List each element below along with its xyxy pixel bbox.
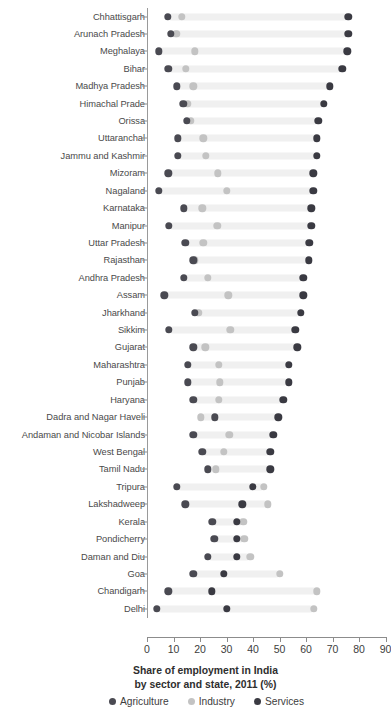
chart-row: Punjab — [0, 374, 391, 391]
chart-row: Jammu and Kashmir — [0, 147, 391, 164]
data-point-services — [280, 396, 287, 403]
y-axis-label: Gujarat — [115, 342, 145, 352]
chart-row: Mizoram — [0, 165, 391, 182]
y-axis-label: Dadra and Nagar Haveli — [46, 412, 145, 422]
chart-row: West Bengal — [0, 444, 391, 461]
chart-row: Dadra and Nagar Haveli — [0, 409, 391, 426]
x-axis-tick — [333, 637, 334, 642]
chart-row: Tripura — [0, 478, 391, 495]
y-axis-tick — [142, 573, 147, 574]
x-axis-tick-label: 90 — [380, 643, 391, 655]
y-axis-label: Manipur — [112, 221, 145, 231]
chart-row: Arunach Pradesh — [0, 25, 391, 42]
range-connector — [157, 605, 314, 612]
chart-title-line-1: Share of employment in India — [20, 664, 391, 678]
chart-row: Daman and Diu — [0, 548, 391, 565]
y-axis-label: Tripura — [116, 482, 145, 492]
data-point-industry — [276, 570, 283, 577]
y-axis-label: Nagaland — [106, 186, 145, 196]
data-point-services — [292, 326, 299, 333]
range-connector — [171, 30, 349, 37]
y-axis-label: Himachal Prade — [80, 99, 145, 109]
x-axis-tick — [359, 637, 360, 642]
x-axis-tick-label: 60 — [300, 643, 312, 655]
range-connector — [185, 501, 268, 508]
range-connector — [168, 588, 316, 595]
chart-row: Uttaranchal — [0, 130, 391, 147]
x-axis-tick-label: 0 — [144, 643, 150, 655]
chart-row: Tamil Nadu — [0, 461, 391, 478]
y-axis-tick — [142, 208, 147, 209]
data-point-services — [313, 152, 320, 159]
chart-row: Uttar Pradesh — [0, 234, 391, 251]
data-point-services — [285, 379, 292, 386]
y-axis-label: Sikkim — [118, 325, 145, 335]
chart-row: Haryana — [0, 391, 391, 408]
data-point-services — [270, 431, 277, 438]
data-point-industry — [260, 483, 267, 490]
range-connector — [193, 570, 279, 577]
y-axis-tick — [142, 347, 147, 348]
x-axis-tick — [227, 637, 228, 642]
y-axis-label: Daman and Diu — [81, 552, 145, 562]
y-axis-tick — [142, 399, 147, 400]
data-point-services — [294, 344, 301, 351]
y-axis-tick — [142, 556, 147, 557]
legend-swatch-agriculture-icon — [109, 698, 116, 705]
data-point-industry — [264, 501, 271, 508]
legend-item-agriculture[interactable]: Agriculture — [109, 696, 169, 707]
range-connector — [195, 309, 301, 316]
range-connector — [193, 344, 297, 351]
data-point-services — [275, 413, 282, 420]
y-axis-label: Rajasthan — [104, 255, 145, 265]
data-point-services — [326, 82, 333, 89]
y-axis-tick — [142, 452, 147, 453]
data-point-services — [267, 466, 274, 473]
data-point-services — [297, 309, 304, 316]
y-axis-tick — [142, 295, 147, 296]
range-connector — [168, 65, 342, 72]
y-axis-tick — [142, 155, 147, 156]
x-axis-tick-label: 50 — [274, 643, 286, 655]
chart-row: Goa — [0, 565, 391, 582]
y-axis-tick — [142, 242, 147, 243]
y-axis-label: Andhra Pradesh — [79, 273, 146, 283]
data-point-services — [345, 13, 352, 20]
chart-row: Manipur — [0, 217, 391, 234]
chart-row: Lakshadweep — [0, 496, 391, 513]
x-axis-tick-label: 30 — [221, 643, 233, 655]
chart-row: Orissa — [0, 113, 391, 130]
data-point-services — [309, 187, 316, 194]
y-axis-tick — [142, 68, 147, 69]
range-connector — [193, 257, 308, 264]
y-axis-label: Uttaranchal — [98, 133, 145, 143]
y-axis-label: Arunach Pradesh — [74, 29, 145, 39]
chart-row: Kerala — [0, 513, 391, 530]
chart-axis-title: Share of employment in India by sector a… — [0, 664, 391, 691]
range-connector — [168, 170, 313, 177]
x-axis-tick-label: 20 — [194, 643, 206, 655]
data-point-services — [305, 257, 312, 264]
y-axis-tick — [142, 469, 147, 470]
legend-item-industry[interactable]: Industry — [188, 696, 235, 707]
chart-row: Maharashtra — [0, 356, 391, 373]
chart-row: Andhra Pradesh — [0, 269, 391, 286]
data-point-industry — [310, 605, 317, 612]
y-axis-tick — [142, 312, 147, 313]
y-axis-tick — [142, 486, 147, 487]
data-point-industry — [247, 553, 254, 560]
legend-label: Industry — [199, 696, 235, 707]
y-axis-label: Chhattisgarh — [93, 12, 145, 22]
legend-item-services[interactable]: Services — [254, 696, 304, 707]
x-axis-tick — [174, 637, 175, 642]
chart-row: Madhya Pradesh — [0, 78, 391, 95]
range-connector — [159, 48, 347, 55]
x-axis-tick-label: 10 — [168, 643, 180, 655]
data-point-services — [309, 170, 316, 177]
x-axis-tick — [280, 637, 281, 642]
y-axis-tick — [142, 521, 147, 522]
y-axis-tick — [142, 434, 147, 435]
chart-legend: AgricultureIndustryServices — [0, 696, 391, 707]
data-point-services — [315, 117, 322, 124]
x-axis-tick — [253, 637, 254, 642]
